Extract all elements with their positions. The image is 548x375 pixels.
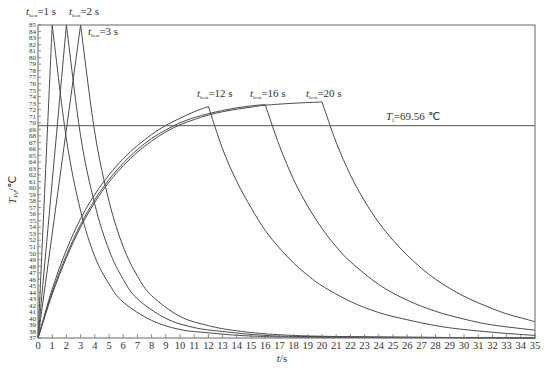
label-heat-20s: theat=20 s (306, 87, 342, 100)
label-heat-12s: theat=12 s (197, 87, 233, 100)
x-tick-label: 18 (288, 340, 299, 351)
x-tick-label: 6 (121, 340, 126, 351)
label-ti: Ti=69.56 ℃ (386, 110, 440, 123)
x-tick-label: 5 (106, 340, 111, 351)
x-tick-label: 15 (246, 340, 257, 351)
x-tick-label: 33 (501, 340, 512, 351)
x-tick-label: 13 (217, 340, 228, 351)
x-tick-label: 34 (516, 340, 527, 351)
x-tick-label: 19 (303, 340, 314, 351)
curve-heat-12s (38, 107, 535, 338)
x-tick-label: 23 (359, 340, 370, 351)
x-tick-label: 26 (402, 340, 413, 351)
x-tick-label: 35 (530, 340, 541, 351)
curve-heat-1s (38, 25, 535, 338)
x-tick-label: 4 (92, 340, 98, 351)
x-tick-label: 0 (35, 340, 40, 351)
x-tick-label: 29 (445, 340, 456, 351)
label-heat-3s: theat=3 s (88, 25, 118, 38)
x-tick-label: 21 (331, 340, 342, 351)
x-tick-label: 32 (487, 340, 498, 351)
curve-heat-20s (38, 102, 535, 338)
x-tick-label: 9 (163, 340, 168, 351)
x-tick-label: 10 (175, 340, 186, 351)
x-tick-label: 27 (416, 340, 427, 351)
curve-heat-16s (38, 105, 535, 338)
x-tick-label: 1 (50, 340, 55, 351)
x-tick-label: 30 (459, 340, 470, 351)
x-tick-label: 22 (345, 340, 356, 351)
label-heat-16s: theat=16 s (250, 87, 286, 100)
label-heat-2s: theat=2 s (69, 5, 99, 18)
x-tick-label: 3 (78, 340, 83, 351)
x-tick-label: 11 (189, 340, 199, 351)
x-tick-label: 7 (135, 340, 140, 351)
y-tick-label: 85 (29, 21, 37, 29)
y-axis: 3738394041424344454647484950515253545556… (29, 21, 41, 342)
plot-frame (38, 25, 535, 338)
x-tick-label: 25 (388, 340, 399, 351)
x-tick-label: 2 (64, 340, 69, 351)
x-tick-label: 14 (232, 340, 243, 351)
x-tick-label: 28 (430, 340, 441, 351)
x-tick-label: 31 (473, 340, 484, 351)
curve-group (38, 25, 535, 338)
x-tick-label: 8 (149, 340, 154, 351)
y-axis-label: TPd/℃ (6, 176, 19, 204)
curve-heat-2s (38, 25, 535, 338)
x-tick-label: 24 (374, 340, 385, 351)
x-tick-label: 16 (260, 340, 271, 351)
temperature-chart: 3738394041424344454647484950515253545556… (0, 0, 548, 375)
curve-heat-3s (38, 25, 535, 338)
x-tick-label: 17 (274, 340, 285, 351)
x-axis-label: t/s (277, 352, 287, 364)
label-heat-1s: theat=1 s (26, 5, 56, 18)
x-tick-label: 12 (203, 340, 214, 351)
x-tick-label: 20 (317, 340, 328, 351)
